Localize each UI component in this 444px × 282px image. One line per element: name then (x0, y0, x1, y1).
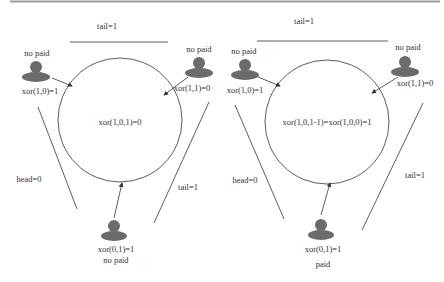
person-tr-xor: xor(1,1)=0 (174, 83, 211, 93)
arrow-icon (372, 77, 398, 93)
person-icon (391, 56, 419, 77)
center-result: xor(1,0,1)=0 (98, 117, 141, 127)
person-icon (231, 59, 259, 80)
top-coin-label: tail=1 (97, 21, 117, 31)
person-tr-status: no paid (395, 42, 421, 52)
center-result: xor(1,0,1-1)=xor(1,0,0)=1 (283, 117, 372, 127)
arrow-icon (114, 183, 122, 218)
left-coin-label: head=0 (232, 175, 257, 185)
person-tr-status: no paid (186, 44, 212, 54)
person-tl-status: no paid (231, 46, 257, 56)
right-coin-label: tail=1 (178, 182, 198, 192)
person-bottom-status: paid (316, 259, 331, 269)
person-tl-status: no paid (24, 48, 50, 58)
person-bottom-xor: xor(0,1)=1 (98, 244, 135, 254)
panel-right: tail=1 xor(1,0,1-1)=xor(1,0,0)=1 no paid… (227, 16, 434, 269)
right-coin-label: tail=1 (405, 170, 425, 180)
left-coin-line (235, 105, 284, 219)
person-bottom-xor: xor(0,1)=1 (305, 244, 342, 254)
panel-left: tail=1 xor(1,0,1)=0 no paid xor(1,0)=1 n… (16, 21, 213, 265)
person-icon (308, 219, 334, 240)
right-coin-line (154, 102, 209, 223)
person-tr-xor: xor(1,1)=0 (397, 78, 434, 88)
arrow-icon (52, 78, 72, 86)
person-icon (101, 220, 127, 241)
left-coin-label: head=0 (16, 174, 41, 184)
person-icon (185, 57, 213, 78)
person-tl-xor: xor(1,0)=1 (227, 85, 264, 95)
person-icon (22, 61, 50, 82)
dining-cryptographers-diagram: tail=1 xor(1,0,1)=0 no paid xor(1,0)=1 n… (0, 0, 444, 282)
arrow-icon (321, 183, 330, 215)
top-coin-label: tail=1 (294, 16, 314, 26)
person-tl-xor: xor(1,0)=1 (22, 86, 59, 96)
person-bottom-status: no paid (103, 255, 129, 265)
